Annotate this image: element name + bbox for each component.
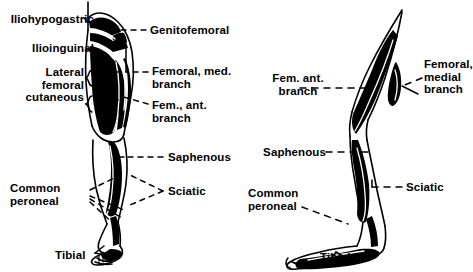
leader-femoral-med-branch bbox=[126, 48, 148, 72]
label-sciatic-right: Sciatic bbox=[406, 181, 462, 194]
label-tibial: Tibial bbox=[55, 249, 101, 262]
label-common-peroneal: Common peroneal bbox=[10, 182, 90, 207]
label-iliohypogastric: Iliohypogastric bbox=[2, 13, 94, 26]
label-lateral-femoral-cutaneous: Lateral femoral cutaneous bbox=[0, 66, 84, 104]
label-femoral-med-branch: Femoral, med. branch bbox=[152, 65, 248, 90]
leader-femoral-medial-branch-right bbox=[402, 78, 422, 94]
label-sciatic: Sciatic bbox=[168, 185, 232, 198]
label-genitofemoral: Genitofemoral bbox=[150, 24, 262, 37]
label-saphenous-right: Saphenous bbox=[246, 146, 326, 159]
label-femoral-medial-branch-right: Femoral, medial branch bbox=[424, 58, 470, 96]
label-common-peroneal-right: Common peroneal bbox=[248, 187, 328, 212]
label-fem-ant-branch: Fem., ant. branch bbox=[152, 99, 240, 124]
label-fem-ant-branch-right: Fem. ant. branch bbox=[258, 72, 338, 97]
label-ilioinguinal: Ilioinguinal bbox=[2, 42, 94, 55]
label-saphenous: Saphenous bbox=[168, 151, 252, 164]
label-tibial-right: Tibial bbox=[320, 251, 366, 264]
leader-sciatic bbox=[130, 175, 163, 205]
